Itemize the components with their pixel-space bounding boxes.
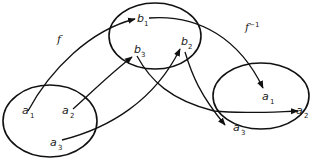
svg-text:a: a: [22, 104, 29, 117]
label-f: f: [56, 33, 63, 46]
svg-text:b: b: [181, 35, 188, 48]
svg-text:b: b: [137, 12, 144, 25]
element-top-b1: b 1: [137, 12, 148, 28]
element-right-a3: a 3: [233, 121, 245, 137]
arrow-f-a1-b1: [28, 19, 135, 111]
svg-text:2: 2: [188, 43, 192, 51]
svg-text:2: 2: [70, 112, 74, 120]
element-left-a1: a 1: [22, 104, 34, 120]
element-top-b3: b 3: [134, 43, 145, 59]
function-diagram: f f−1 a 1 a 2 a 3 b 1 b 3 b 2 a 1 a 2 a …: [0, 0, 312, 165]
svg-text:3: 3: [58, 144, 62, 152]
svg-text:2: 2: [304, 112, 308, 120]
svg-text:1: 1: [144, 20, 148, 28]
arrow-f-a3-b2: [62, 49, 180, 140]
svg-text:a: a: [233, 121, 240, 134]
element-left-a2: a 2: [62, 104, 74, 120]
svg-text:3: 3: [241, 129, 245, 137]
element-top-b2: b 2: [181, 35, 192, 51]
arrow-finv-b2-a3: [185, 52, 225, 125]
svg-text:a: a: [262, 90, 269, 103]
svg-text:a: a: [296, 104, 303, 117]
label-f-inverse-sup: −1: [249, 21, 259, 29]
element-left-a3: a 3: [50, 136, 62, 152]
label-f-inverse: f−1: [244, 21, 259, 34]
svg-text:a: a: [62, 104, 69, 117]
svg-text:a: a: [50, 136, 57, 149]
set-a-right-ellipse: [213, 63, 309, 129]
svg-text:1: 1: [270, 98, 274, 106]
svg-text:b: b: [134, 43, 141, 56]
arrow-f-a2-b3: [73, 57, 132, 109]
element-right-a1: a 1: [262, 90, 274, 106]
svg-text:3: 3: [141, 51, 145, 59]
svg-text:1: 1: [30, 112, 34, 120]
